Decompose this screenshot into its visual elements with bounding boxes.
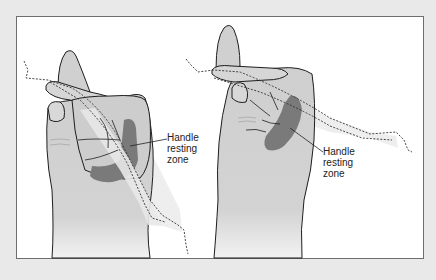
left-thumb-pad — [48, 102, 65, 122]
right-hand-palm — [214, 68, 315, 258]
left-hand — [24, 51, 188, 258]
right-label-line1: Handle — [323, 146, 355, 157]
right-index-finger — [212, 66, 288, 83]
hand-grip-illustration — [0, 0, 436, 280]
left-label-line2: resting — [167, 143, 199, 154]
left-label-line1: Handle — [167, 132, 199, 143]
left-label-line3: zone — [167, 154, 199, 165]
left-handle-resting-zone-label: Handle resting zone — [167, 132, 199, 165]
right-label-line2: resting — [323, 157, 355, 168]
right-hand — [186, 25, 412, 258]
right-handle-resting-zone-label: Handle resting zone — [323, 146, 355, 179]
right-label-line3: zone — [323, 168, 355, 179]
right-thumb-pad — [232, 83, 248, 103]
